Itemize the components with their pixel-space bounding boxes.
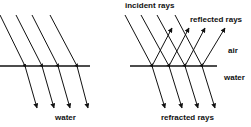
incident-ray-icon (16, 15, 42, 66)
incident-rays-label: incident rays (125, 2, 174, 10)
left-water-label: water (55, 114, 76, 122)
incident-ray-icon (125, 15, 152, 66)
incident-ray-icon (157, 15, 185, 66)
refracted-rays-label: refracted rays (161, 114, 214, 122)
refracted-ray-arrow-icon (25, 66, 37, 108)
right-water-label: water (224, 74, 245, 82)
reflected-rays-label: reflected rays (190, 16, 242, 24)
refracted-ray-arrow-icon (169, 66, 182, 108)
reflected-ray-arrow-icon (202, 28, 225, 66)
refraction-reflection-diagram: water incident rays reflected rays air w… (0, 0, 251, 127)
incident-ray-icon (0, 15, 25, 66)
refracted-ray-arrow-icon (185, 66, 198, 108)
refracted-ray-arrow-icon (58, 66, 70, 108)
reflected-ray-arrow-icon (185, 28, 205, 66)
left-panel (0, 15, 90, 108)
reflected-ray-arrow-icon (169, 28, 189, 66)
right-panel (125, 15, 225, 108)
refracted-ray-arrow-icon (77, 66, 88, 108)
refracted-ray-arrow-icon (152, 66, 165, 108)
air-label: air (228, 47, 238, 55)
reflected-ray-arrow-icon (152, 28, 172, 66)
incident-ray-icon (141, 15, 169, 66)
refracted-ray-arrow-icon (202, 66, 215, 108)
refracted-ray-arrow-icon (42, 66, 54, 108)
